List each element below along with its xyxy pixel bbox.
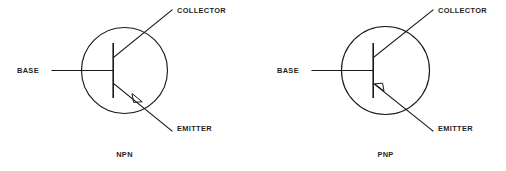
npn-collector-label: COLLECTOR — [177, 6, 226, 15]
diagram-canvas: BASE COLLECTOR EMITTER NPN BASE COLLECTO… — [0, 0, 506, 171]
npn-emitter-arrowhead-icon — [132, 94, 142, 103]
transistor-symbols-figure: BASE COLLECTOR EMITTER NPN BASE COLLECTO… — [0, 0, 506, 171]
npn-symbol-group: BASE COLLECTOR EMITTER NPN — [17, 6, 226, 159]
pnp-emitter-label: EMITTER — [438, 124, 473, 133]
npn-base-label: BASE — [17, 66, 39, 75]
pnp-symbol-group: BASE COLLECTOR EMITTER PNP — [277, 6, 487, 159]
npn-caption: NPN — [116, 150, 133, 159]
pnp-caption: PNP — [377, 150, 393, 159]
pnp-emitter-arrowhead-icon — [375, 83, 384, 91]
pnp-base-label: BASE — [277, 66, 299, 75]
npn-emitter-label: EMITTER — [177, 124, 212, 133]
pnp-collector-label: COLLECTOR — [438, 6, 487, 15]
npn-emitter-lead — [114, 84, 173, 132]
npn-collector-lead — [114, 10, 173, 58]
